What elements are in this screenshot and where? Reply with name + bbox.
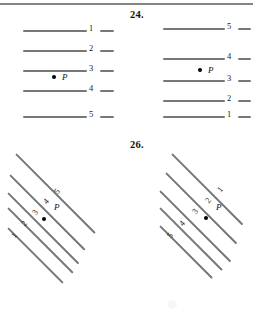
parallel-line-tick: [100, 50, 114, 52]
parallel-line-tick: [100, 116, 114, 118]
line-label: 1: [10, 231, 19, 240]
figure-26: 1 2 3 4 5 P: [160, 145, 253, 255]
parallel-line: [163, 28, 225, 30]
point-p-label: P: [54, 203, 60, 212]
parallel-line: [23, 116, 87, 118]
line-label: 1: [89, 24, 93, 33]
line-label: 1: [216, 185, 225, 194]
point-p-label: P: [216, 203, 222, 212]
diagonal-line: [159, 207, 222, 270]
line-label: 3: [227, 74, 231, 83]
parallel-line-tick: [238, 80, 251, 82]
figure-25: 5 4 3 2 1 P: [8, 145, 123, 255]
problem-number-24: 24.: [130, 9, 144, 20]
line-label: 2: [89, 44, 93, 53]
parallel-line: [163, 100, 225, 102]
parallel-line: [23, 30, 87, 32]
point-p-dot: [52, 75, 56, 79]
line-label: 4: [42, 197, 51, 206]
parallel-line-tick: [238, 28, 251, 30]
point-p-dot: [42, 217, 46, 221]
line-label: 3: [191, 207, 200, 216]
figure-23: 1 2 3 P 4 5: [20, 8, 120, 128]
line-label: 2: [227, 94, 231, 103]
line-label: 5: [166, 231, 175, 240]
line-label: 3: [89, 64, 93, 73]
line-label: 5: [227, 22, 231, 31]
point-p-dot: [198, 68, 202, 72]
parallel-line-tick: [100, 90, 114, 92]
document-page: 1 2 3 P 4 5 24. 5 4 P: [0, 0, 253, 312]
parallel-line: [163, 116, 225, 118]
line-label: 2: [20, 219, 29, 228]
parallel-line: [23, 50, 87, 52]
parallel-line-tick: [100, 70, 114, 72]
line-label: 4: [89, 84, 93, 93]
parallel-line: [23, 90, 87, 92]
parallel-line-tick: [238, 100, 251, 102]
line-label: 5: [89, 110, 93, 119]
parallel-line: [163, 58, 225, 60]
scan-artifact: [168, 300, 177, 309]
diagonal-line: [7, 192, 79, 264]
parallel-line: [163, 80, 225, 82]
parallel-line: [23, 70, 87, 72]
point-p-label: P: [62, 73, 68, 82]
line-label: 1: [227, 110, 231, 119]
point-p-label: P: [208, 66, 214, 75]
parallel-line-tick: [238, 58, 251, 60]
page-top-rule: [0, 3, 253, 5]
line-label: 4: [227, 52, 231, 61]
point-p-dot: [204, 216, 208, 220]
line-label: 2: [204, 196, 213, 205]
line-label: 5: [53, 187, 62, 196]
parallel-line-tick: [238, 116, 251, 118]
parallel-line-tick: [100, 30, 114, 32]
figure-24: 5 4 P 3 2 1: [160, 8, 253, 128]
diagonal-line: [7, 207, 73, 273]
problem-number-26: 26.: [130, 139, 144, 150]
